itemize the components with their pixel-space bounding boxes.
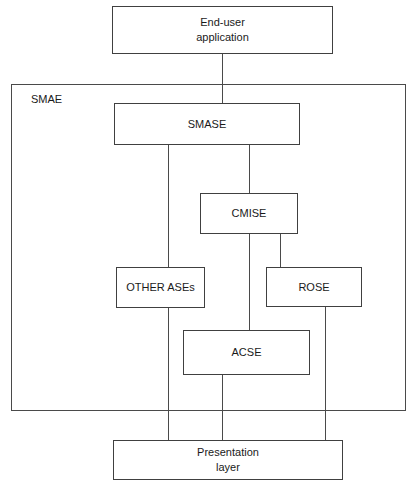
smae-architecture-diagram: SMAE End-user application SMASE CMISE OT…	[0, 0, 416, 493]
node-smase: SMASE	[114, 103, 300, 145]
node-label-cmise: CMISE	[232, 206, 267, 221]
smae-group-label: SMAE	[31, 93, 62, 105]
node-cmise: CMISE	[200, 193, 298, 234]
node-acse: ACSE	[183, 330, 310, 375]
node-other-ases: OTHER ASEs	[116, 267, 205, 308]
node-label-presentation-layer: Presentation layer	[197, 445, 259, 475]
node-rose: ROSE	[266, 267, 362, 307]
connector-cmise-to-acse	[249, 234, 250, 330]
node-presentation-layer: Presentation layer	[113, 440, 343, 480]
connector-otherases-to-presentation	[168, 308, 169, 442]
connector-cmise-to-rose	[280, 234, 281, 267]
node-end-user-application: End-user application	[112, 6, 333, 54]
connector-rose-to-presentation	[325, 307, 326, 442]
node-label-rose: ROSE	[298, 280, 329, 295]
connector-smase-to-otherases	[168, 145, 169, 267]
connector-enduser-to-smase	[222, 54, 223, 103]
node-label-smase: SMASE	[188, 117, 227, 132]
node-label-other-ases: OTHER ASEs	[126, 280, 194, 295]
connector-smase-to-cmise	[249, 145, 250, 193]
connector-acse-to-presentation	[222, 375, 223, 442]
node-label-end-user-application: End-user application	[196, 15, 249, 45]
node-label-acse: ACSE	[232, 345, 262, 360]
